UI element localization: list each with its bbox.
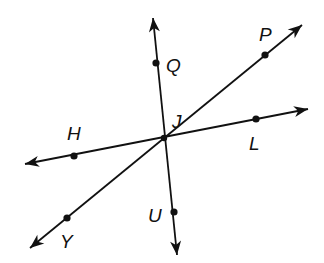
point-U bbox=[170, 208, 177, 215]
point-Y bbox=[63, 214, 70, 221]
point-label-L: L bbox=[249, 133, 260, 154]
intersecting-lines-diagram: J QUPYHL bbox=[0, 0, 324, 263]
point-label-H: H bbox=[67, 123, 81, 144]
point-label-P: P bbox=[259, 24, 272, 45]
arrowhead-icon bbox=[30, 235, 44, 248]
point-label-Y: Y bbox=[60, 231, 74, 252]
point-label-U: U bbox=[148, 205, 162, 226]
arrowhead-icon bbox=[288, 25, 302, 38]
point-label-J: J bbox=[171, 111, 182, 132]
point-L bbox=[252, 115, 259, 122]
point-Q bbox=[152, 59, 159, 66]
point-H bbox=[70, 152, 77, 159]
point-P bbox=[261, 51, 268, 58]
point-J bbox=[161, 135, 167, 141]
point-label-Q: Q bbox=[166, 55, 181, 76]
